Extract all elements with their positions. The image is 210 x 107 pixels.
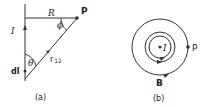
label-dl: dl [11, 67, 20, 76]
label-p: P [81, 6, 88, 16]
label-b-field: B [156, 78, 163, 88]
r12-vector-line [25, 18, 77, 79]
caption-b: (b) [153, 94, 164, 103]
label-theta: θ [28, 58, 34, 68]
biot-savart-diagram: R P ϕ I θ r12 dl (a) I P B (b) [0, 0, 210, 107]
wire-center-dot [158, 45, 161, 48]
figure-b: I P B (b) [132, 19, 198, 103]
dl-element-dot [24, 70, 27, 73]
point-p-dot [186, 45, 190, 49]
figure-a: R P ϕ I θ r12 dl (a) [10, 4, 88, 102]
caption-a: (a) [35, 93, 46, 102]
label-r: R [47, 8, 55, 18]
label-current-i: I [10, 26, 15, 36]
point-p-dot [75, 16, 79, 20]
current-arrow-icon [23, 25, 27, 30]
label-current-i: I [162, 43, 167, 53]
inner-field-arrow-icon [159, 55, 165, 61]
label-p: P [192, 43, 198, 53]
label-r12: r12 [50, 55, 62, 64]
label-phi: ϕ [57, 20, 63, 30]
